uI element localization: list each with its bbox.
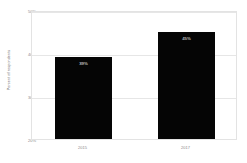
- plot-area: 39%45%: [31, 11, 237, 140]
- bar-chart: Percent of respondents 20%30%40%50% 39%4…: [0, 0, 247, 163]
- bar-value-label-2017: 45%: [158, 36, 216, 41]
- bar-2015[interactable]: 39%: [55, 57, 113, 139]
- y-axis-title: Percent of respondents: [2, 0, 16, 140]
- bar-value-label-2015: 39%: [55, 61, 113, 66]
- bar-2017[interactable]: 45%: [158, 32, 216, 140]
- x-tick-2017: 2017: [181, 145, 190, 150]
- x-tick-2015: 2015: [78, 145, 87, 150]
- gridline-50pct: [32, 12, 236, 13]
- y-axis-title-label: Percent of respondents: [7, 50, 11, 90]
